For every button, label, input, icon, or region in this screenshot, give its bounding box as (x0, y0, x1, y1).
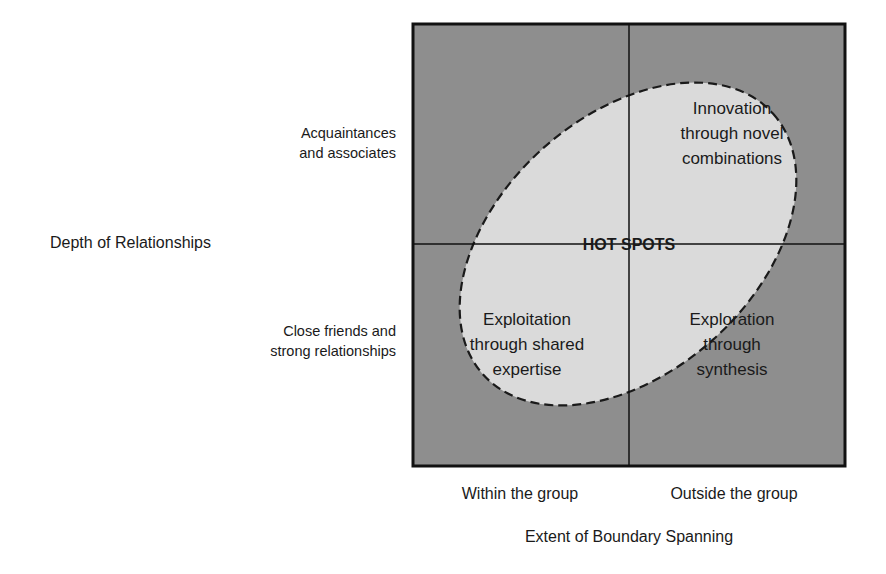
x-axis-title: Extent of Boundary Spanning (479, 527, 779, 547)
y-top-line-1: Acquaintances (200, 123, 396, 143)
svg-text:expertise: expertise (493, 360, 562, 379)
svg-text:combinations: combinations (682, 149, 782, 168)
svg-text:through shared: through shared (470, 335, 584, 354)
svg-text:through novel: through novel (680, 124, 783, 143)
center-label: HOT SPOTS (583, 236, 676, 253)
y-axis-bottom-label: Close friends and strong relationships (200, 321, 396, 361)
svg-text:through: through (703, 335, 761, 354)
svg-text:synthesis: synthesis (697, 360, 768, 379)
y-axis-top-label: Acquaintances and associates (200, 123, 396, 163)
y-top-line-2: and associates (200, 143, 396, 163)
y-bottom-line-1: Close friends and (200, 321, 396, 341)
x-axis-left-label: Within the group (420, 484, 620, 504)
y-axis-title: Depth of Relationships (50, 233, 211, 253)
svg-text:Exploitation: Exploitation (483, 310, 571, 329)
svg-text:Exploration: Exploration (689, 310, 774, 329)
svg-text:Innovation: Innovation (693, 99, 771, 118)
y-bottom-line-2: strong relationships (200, 341, 396, 361)
quadrant-top-right: Innovation through novel combinations (680, 99, 783, 168)
x-axis-right-label: Outside the group (634, 484, 834, 504)
